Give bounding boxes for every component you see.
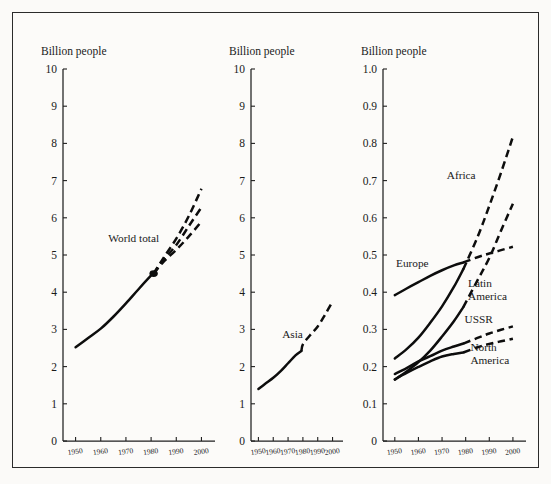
x-tick-label: 1990 [481, 446, 497, 457]
y-tick-label: 0.7 [363, 175, 378, 187]
y-tick-label: 9 [239, 100, 245, 112]
y-axis-title: Billion people [229, 45, 294, 58]
y-tick-label: 3 [51, 323, 57, 335]
x-tick-label: 1970 [117, 446, 133, 457]
y-tick-label: 0.3 [363, 323, 378, 335]
y-tick-label: 0.5 [363, 249, 378, 261]
figure-frame: Billion people01234567891019501960197019… [12, 12, 539, 468]
x-tick-label: 1970 [434, 446, 450, 457]
series-label: Asia [282, 328, 303, 340]
series-label: America [468, 290, 507, 302]
x-tick-label: 1980 [143, 446, 159, 457]
y-tick-label: 0.8 [363, 137, 378, 149]
y-tick-label: 8 [51, 137, 57, 149]
x-tick-label: 1950 [67, 446, 83, 457]
y-tick-label: 10 [46, 63, 58, 75]
y-tick-label: 1 [239, 398, 245, 410]
series-label: America [470, 354, 509, 366]
figure-canvas: Billion people01234567891019501960197019… [0, 0, 551, 484]
series-label: Africa [447, 169, 476, 181]
x-tick-label: 1960 [410, 446, 426, 457]
y-tick-label: 7 [51, 175, 57, 187]
series-line [154, 222, 202, 274]
x-tick-label: 1960 [92, 446, 108, 457]
y-axis-title: Billion people [41, 45, 106, 58]
series-label: Europe [396, 257, 429, 269]
y-tick-label: 0.9 [363, 100, 378, 112]
chart-svg: Billion people00.10.20.30.40.50.60.70.80… [333, 13, 538, 469]
x-tick-label: 2000 [504, 446, 520, 457]
y-tick-label: 7 [239, 175, 245, 187]
series-label: USSR [464, 313, 493, 325]
series-line [395, 344, 464, 375]
series-line [154, 189, 202, 274]
series-line [395, 269, 464, 358]
series-line [301, 302, 332, 351]
y-tick-label: 2 [51, 361, 57, 373]
series-label: Latin [468, 277, 492, 289]
y-tick-label: 1 [51, 398, 57, 410]
x-tick-label: 1950 [386, 446, 402, 457]
y-tick-label: 0 [239, 435, 245, 447]
y-tick-label: 5 [239, 249, 245, 261]
series-line [463, 137, 513, 269]
series-line [258, 351, 301, 389]
y-tick-label: 0.4 [363, 286, 378, 298]
series-label: World total [108, 232, 159, 244]
y-tick-label: 1.0 [363, 63, 378, 75]
y-tick-label: 0 [51, 435, 57, 447]
y-tick-label: 9 [51, 100, 57, 112]
chart-svg: Billion people01234567891019501960197019… [19, 13, 219, 469]
chart-svg: Billion people01234567891019501960197019… [219, 13, 347, 469]
y-tick-label: 2 [239, 361, 245, 373]
y-tick-label: 6 [51, 212, 57, 224]
chart-panel-world-total: Billion people01234567891019501960197019… [19, 13, 219, 469]
y-tick-label: 8 [239, 137, 245, 149]
x-tick-label: 1990 [168, 446, 184, 457]
y-tick-label: 4 [51, 286, 57, 298]
y-tick-label: 0.1 [363, 398, 378, 410]
series-label: North [470, 341, 497, 353]
y-tick-label: 0.2 [363, 361, 378, 373]
y-tick-label: 6 [239, 212, 245, 224]
x-tick-label: 2000 [193, 446, 209, 457]
y-axis-title: Billion people [361, 45, 426, 58]
chart-panel-asia: Billion people01234567891019501960197019… [219, 13, 347, 469]
series-line [76, 274, 154, 348]
y-tick-label: 3 [239, 323, 245, 335]
x-tick-label: 1980 [457, 446, 473, 457]
y-tick-label: 0 [371, 435, 377, 447]
y-tick-label: 0.6 [363, 212, 378, 224]
y-tick-label: 10 [234, 63, 246, 75]
y-tick-label: 4 [239, 286, 245, 298]
branch-node-marker [149, 270, 157, 277]
chart-panel-regions: Billion people00.10.20.30.40.50.60.70.80… [333, 13, 538, 469]
y-tick-label: 5 [51, 249, 57, 261]
